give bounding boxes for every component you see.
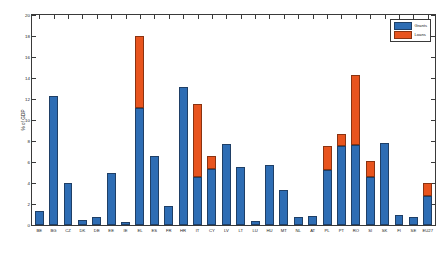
y-tick-right	[431, 15, 435, 16]
x-tick-top	[269, 15, 270, 19]
bar-segment-grants	[35, 211, 44, 225]
bar-at[interactable]	[308, 216, 317, 225]
x-tick-top	[39, 15, 40, 19]
y-tick-right	[431, 36, 435, 37]
x-tick-top	[327, 15, 328, 19]
bar-segment-grants	[251, 221, 260, 225]
x-tick-label-ee: EE	[108, 228, 114, 233]
bar-ro[interactable]	[351, 75, 360, 225]
x-tick-label-de: DE	[94, 228, 100, 233]
bar-lu[interactable]	[251, 221, 260, 225]
y-tick-right	[431, 162, 435, 163]
x-tick-top	[82, 15, 83, 19]
bar-fi[interactable]	[395, 215, 404, 226]
y-tick-label: 14	[25, 76, 30, 81]
x-tick-label-bg: BG	[51, 228, 57, 233]
bar-si[interactable]	[366, 161, 375, 225]
x-tick-top	[183, 15, 184, 19]
bar-fr[interactable]	[164, 206, 173, 225]
bar-segment-grants	[135, 108, 144, 225]
bar-segment-grants	[222, 144, 231, 225]
bar-segment-grants	[395, 215, 404, 226]
bar-ie[interactable]	[121, 222, 130, 225]
bar-segment-grants	[294, 217, 303, 225]
x-tick-label-si: SI	[368, 228, 372, 233]
y-tick	[32, 120, 36, 121]
x-tick-label-se: SE	[411, 228, 417, 233]
bar-nl[interactable]	[294, 217, 303, 225]
bar-cy[interactable]	[207, 156, 216, 225]
bar-eu27[interactable]	[423, 183, 432, 225]
bar-segment-loans	[135, 36, 144, 108]
x-tick-label-be: BE	[36, 228, 42, 233]
x-tick-label-pl: PL	[324, 228, 329, 233]
x-tick-label-ro: RO	[353, 228, 359, 233]
bar-hr[interactable]	[179, 87, 188, 225]
y-tick-label: 0	[28, 223, 30, 228]
bar-segment-loans	[337, 134, 346, 147]
y-tick-label: 16	[25, 55, 30, 60]
x-tick-top	[111, 15, 112, 19]
bar-pl[interactable]	[323, 146, 332, 225]
bar-el[interactable]	[135, 36, 144, 225]
legend-item-loans[interactable]: Loans	[394, 31, 427, 39]
bar-segment-loans	[323, 146, 332, 170]
bar-pt[interactable]	[337, 134, 346, 225]
bar-segment-grants	[164, 206, 173, 225]
legend-item-grants[interactable]: Grants	[394, 22, 427, 30]
bar-mt[interactable]	[279, 190, 288, 225]
x-tick-label-dk: DK	[79, 228, 85, 233]
y-tick	[32, 57, 36, 58]
y-tick-right	[431, 225, 435, 226]
x-tick-top	[385, 15, 386, 19]
bar-segment-grants	[236, 167, 245, 225]
bar-lt[interactable]	[236, 167, 245, 225]
y-tick	[32, 204, 36, 205]
y-tick-right	[431, 141, 435, 142]
bar-segment-loans	[423, 183, 432, 196]
x-tick-label-fi: FI	[397, 228, 401, 233]
y-tick	[32, 141, 36, 142]
bar-segment-grants	[150, 156, 159, 225]
bar-segment-grants	[265, 165, 274, 225]
legend-label-loans: Loans	[414, 32, 425, 37]
bar-hu[interactable]	[265, 165, 274, 225]
bar-segment-grants	[337, 146, 346, 225]
x-tick-label-cy: CY	[209, 228, 215, 233]
x-tick-top	[255, 15, 256, 19]
x-tick-top	[341, 15, 342, 19]
bar-segment-grants	[49, 96, 58, 225]
bar-chart: % of GDP 02468101214161820 BEBGCZDKDEEEI…	[0, 0, 447, 257]
y-tick	[32, 15, 36, 16]
y-tick-right	[431, 120, 435, 121]
x-tick-top	[97, 15, 98, 19]
bar-se[interactable]	[409, 217, 418, 225]
x-tick-label-el: EL	[137, 228, 142, 233]
bar-segment-grants	[193, 177, 202, 225]
legend-swatch-grants	[394, 22, 412, 30]
bar-dk[interactable]	[78, 220, 87, 225]
bar-cz[interactable]	[64, 183, 73, 225]
x-tick-top	[313, 15, 314, 19]
y-tick	[32, 225, 36, 226]
bar-segment-grants	[207, 169, 216, 225]
x-tick-top	[140, 15, 141, 19]
x-tick-label-ie: IE	[124, 228, 128, 233]
bar-sk[interactable]	[380, 143, 389, 225]
x-tick-top	[284, 15, 285, 19]
bar-lv[interactable]	[222, 144, 231, 225]
bar-ee[interactable]	[107, 173, 116, 226]
bar-de[interactable]	[92, 217, 101, 225]
y-tick-right	[431, 99, 435, 100]
x-tick-top	[370, 15, 371, 19]
bar-segment-loans	[351, 75, 360, 145]
bar-bg[interactable]	[49, 96, 58, 225]
bar-es[interactable]	[150, 156, 159, 225]
bar-be[interactable]	[35, 211, 44, 225]
legend-swatch-loans	[394, 31, 412, 39]
bar-segment-grants	[78, 220, 87, 225]
y-tick	[32, 36, 36, 37]
bar-it[interactable]	[193, 104, 202, 225]
x-tick-label-lu: LU	[252, 228, 257, 233]
y-tick-label: 2	[28, 202, 30, 207]
